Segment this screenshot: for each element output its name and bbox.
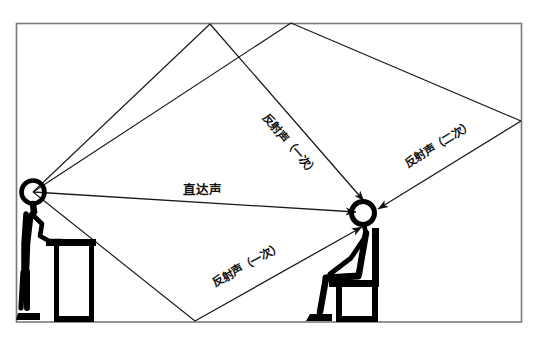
speaker-leg-back <box>21 272 23 308</box>
acoustic-path-diagram: 直达声 反射声（一次） 反射声（一次） 反射声（二次） <box>0 0 538 343</box>
lectern-right-edge <box>89 246 94 322</box>
label-direct-sound: 直达声 <box>183 182 222 197</box>
figure-canvas: 室内声场传播示意图 一位站立讲话者与一位坐着的听者之间的直达声与反射声路径示意图 <box>0 0 538 343</box>
chair-base-rail <box>336 316 378 322</box>
lectern-left-edge <box>54 246 59 322</box>
chair-leg-front <box>336 287 342 321</box>
listener-thigh <box>326 276 358 278</box>
chair-backrest <box>372 228 379 284</box>
lectern-top <box>46 239 96 246</box>
chair-seat <box>329 280 379 287</box>
chair-leg-rear <box>372 287 378 321</box>
speaker-foot <box>16 313 40 320</box>
listener-foot <box>306 314 332 321</box>
lectern-base <box>54 316 94 322</box>
speaker-back <box>24 214 26 272</box>
